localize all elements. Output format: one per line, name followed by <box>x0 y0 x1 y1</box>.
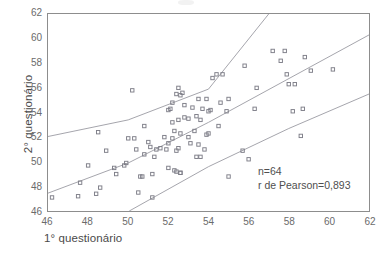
scatter-point <box>191 106 194 109</box>
scatter-point <box>151 172 154 175</box>
scatter-point <box>165 148 168 151</box>
scatter-point <box>331 68 334 71</box>
scatter-point <box>195 155 198 158</box>
scatter-point <box>177 86 180 89</box>
scatter-point <box>167 166 170 169</box>
scatter-point <box>94 192 97 195</box>
scatter-point <box>131 89 134 92</box>
scatter-point <box>86 164 89 167</box>
scatter-point <box>271 49 274 52</box>
x-axis-title: 1° questionário <box>44 232 122 244</box>
scatter-point <box>291 110 294 113</box>
scatter-point <box>197 143 200 146</box>
scatter-point <box>179 171 182 174</box>
scatter-point <box>187 117 190 120</box>
scatter-point <box>287 82 290 85</box>
scatter-point <box>98 186 101 189</box>
y-tick-label: 62 <box>20 7 42 18</box>
scatter-point <box>247 158 250 161</box>
scatter-point <box>227 175 230 178</box>
y-tick-label: 54 <box>20 107 42 118</box>
scatter-point <box>177 118 180 121</box>
scatter-point <box>96 131 99 134</box>
scatter-point <box>179 132 182 135</box>
scatter-point <box>227 97 230 100</box>
sample-size-label: n=64 <box>258 164 351 178</box>
x-tick-label: 58 <box>277 216 301 227</box>
scatter-point <box>183 116 186 119</box>
scatter-point <box>293 82 296 85</box>
pearson-r-label: r de Pearson=0,893 <box>258 178 351 192</box>
scatter-point <box>301 107 304 110</box>
scatter-point <box>199 118 202 121</box>
y-tick-label: 60 <box>20 32 42 43</box>
x-tick-label: 46 <box>35 216 59 227</box>
scatter-point <box>303 55 306 58</box>
y-tick-label: 56 <box>20 82 42 93</box>
scatter-point <box>283 49 286 52</box>
scatter-point <box>183 103 186 106</box>
scatter-point <box>133 137 136 140</box>
x-tick-label: 48 <box>75 216 99 227</box>
scatter-point <box>255 86 258 89</box>
scatter-point <box>285 73 288 76</box>
scatter-point <box>153 155 156 158</box>
scatter-point <box>179 171 182 174</box>
scatter-point <box>187 135 190 138</box>
x-tick-label: 52 <box>156 216 180 227</box>
scatter-point <box>195 115 198 118</box>
scatter-point <box>76 195 79 198</box>
x-tick-label: 54 <box>197 216 221 227</box>
scatter-point <box>309 69 312 72</box>
scatter-point <box>299 134 302 137</box>
scatter-point <box>173 129 176 132</box>
scatter-point <box>205 97 208 100</box>
scatter-point <box>104 149 107 152</box>
scatter-point <box>115 172 118 175</box>
scatter-point <box>147 140 150 143</box>
scatter-point <box>137 191 140 194</box>
scatter-point <box>175 92 178 95</box>
scatter-point <box>217 124 220 127</box>
scatter-point <box>219 101 222 104</box>
x-tick-label: 60 <box>318 216 342 227</box>
scatter-point <box>203 148 206 151</box>
y-tick-label: 58 <box>20 57 42 68</box>
scatter-point <box>171 121 174 124</box>
scatter-point <box>149 145 152 148</box>
limite-superior <box>48 14 269 137</box>
scatter-point <box>163 135 166 138</box>
stats-annotation: n=64 r de Pearson=0,893 <box>258 164 351 192</box>
scatter-point <box>135 148 138 151</box>
y-tick-label: 52 <box>20 131 42 142</box>
scatter-point <box>253 107 256 110</box>
scatter-point <box>189 142 192 145</box>
scatter-point <box>127 137 130 140</box>
x-tick-label: 50 <box>116 216 140 227</box>
scatter-point <box>279 59 282 62</box>
scatter-plot-figure: 2° questionário 1° questionário 46485052… <box>0 0 379 255</box>
scatter-point <box>201 107 204 110</box>
scan-artifact <box>178 0 194 5</box>
x-tick-label: 56 <box>237 216 261 227</box>
scatter-point <box>243 64 246 67</box>
y-tick-label: 50 <box>20 156 42 167</box>
scatter-point <box>211 76 214 79</box>
y-tick-label: 48 <box>20 181 42 192</box>
scatter-point <box>197 97 200 100</box>
scatter-point <box>199 155 202 158</box>
scatter-point <box>50 196 53 199</box>
scatter-point <box>215 73 218 76</box>
x-tick-label: 62 <box>358 216 379 227</box>
scatter-point <box>143 124 146 127</box>
limite-inferior <box>129 94 369 211</box>
